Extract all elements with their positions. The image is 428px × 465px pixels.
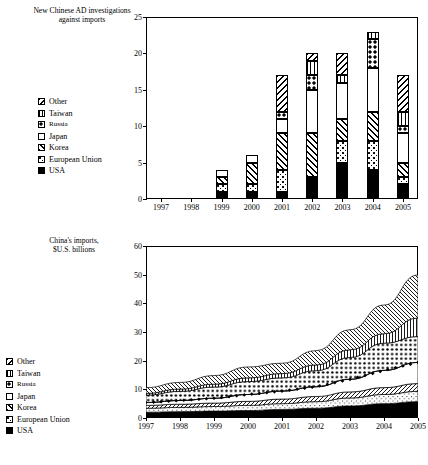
top-x-tick-mark	[191, 199, 192, 202]
bottom-x-tick-mark	[316, 418, 317, 421]
top-x-tick-mark	[373, 199, 374, 202]
bottom-legend-item[interactable]: European Union	[6, 414, 70, 426]
bar-segment	[336, 75, 348, 82]
legend-label: Russia	[49, 120, 68, 129]
bottom-legend-item[interactable]: Japan	[6, 391, 70, 403]
top-legend-item[interactable]: USA	[38, 165, 102, 177]
top-y-tick-label: 15	[120, 85, 142, 94]
legend-label: Korea	[17, 403, 37, 412]
top-x-tick-label: 2003	[327, 203, 357, 212]
top-legend-item[interactable]: Other	[38, 96, 102, 108]
legend-swatch-korea-icon	[6, 404, 13, 411]
bar-segment	[246, 192, 258, 199]
bar-segment	[306, 133, 318, 177]
bottom-y-tick-label: 10	[120, 385, 142, 394]
bottom-y-tick-mark	[143, 361, 147, 362]
bottom-x-tick-mark	[214, 418, 215, 421]
top-legend-item[interactable]: Russia	[38, 119, 102, 131]
legend-swatch-european-union-icon	[6, 416, 13, 423]
bottom-x-tick-mark	[384, 418, 385, 421]
legend-swatch-other-icon	[38, 98, 45, 105]
legend-swatch-taiwan-icon	[38, 110, 45, 117]
bottom-y-tick-mark	[143, 303, 147, 304]
bar-segment	[276, 170, 288, 192]
legend-swatch-usa-icon	[38, 167, 45, 174]
bar-segment	[246, 155, 258, 162]
bar-segment	[216, 192, 228, 199]
legend-label: Taiwan	[49, 109, 72, 118]
top-x-tick-mark	[161, 199, 162, 202]
bar-segment	[397, 177, 409, 184]
legend-swatch-japan-icon	[38, 133, 45, 140]
legend-swatch-russia-icon	[6, 381, 13, 388]
bar-segment	[306, 90, 318, 134]
legend-swatch-russia-icon	[38, 121, 45, 128]
bar-segment	[397, 133, 409, 162]
bar-segment	[306, 177, 318, 199]
top-legend-item[interactable]: Taiwan	[38, 108, 102, 120]
top-y-tick-label: 0	[120, 195, 142, 204]
legend-swatch-usa-icon	[6, 427, 13, 434]
bar-segment	[397, 126, 409, 133]
bar-segment	[306, 75, 318, 90]
legend-swatch-japan-icon	[6, 393, 13, 400]
bottom-legend-item[interactable]: Taiwan	[6, 368, 70, 380]
bar-segment	[397, 184, 409, 199]
legend-label: Japan	[17, 392, 35, 401]
bottom-y-tick-mark	[143, 332, 147, 333]
bottom-y-tick-label: 20	[120, 356, 142, 365]
bottom-x-tick-label: 1997	[131, 422, 161, 431]
bar-segment	[336, 119, 348, 141]
bottom-legend-item[interactable]: Other	[6, 356, 70, 368]
bar-segment	[246, 184, 258, 191]
bottom-y-tick-label: 50	[120, 270, 142, 279]
top-x-tick-label: 2005	[388, 203, 418, 212]
bottom-y-tick-mark	[143, 389, 147, 390]
bar-segment	[367, 141, 379, 170]
bottom-x-tick-mark	[180, 418, 181, 421]
top-legend-item[interactable]: Japan	[38, 131, 102, 143]
bottom-x-tick-mark	[146, 418, 147, 421]
bar-segment	[306, 61, 318, 76]
legend-label: European Union	[17, 415, 70, 424]
bar-segment	[367, 39, 379, 68]
top-y-tick-mark	[143, 126, 147, 127]
top-y-tick-label: 20	[120, 49, 142, 58]
bottom-x-tick-mark	[418, 418, 419, 421]
bottom-x-tick-label: 2000	[233, 422, 263, 431]
top-y-tick-mark	[143, 53, 147, 54]
bar-segment	[276, 75, 288, 111]
bar-segment	[216, 184, 228, 191]
bar-segment	[276, 192, 288, 199]
top-x-tick-mark	[252, 199, 253, 202]
legend-label: Russia	[17, 380, 36, 389]
bar-segment	[367, 32, 379, 39]
bottom-x-tick-mark	[282, 418, 283, 421]
top-x-tick-mark	[312, 199, 313, 202]
bar-segment	[246, 163, 258, 185]
bar-segment	[397, 112, 409, 127]
bar-segment	[306, 53, 318, 60]
top-legend-item[interactable]: European Union	[38, 154, 102, 166]
bottom-y-tick-mark	[143, 246, 147, 247]
bar-segment	[336, 53, 348, 75]
bottom-legend-item[interactable]: Korea	[6, 402, 70, 414]
bottom-legend-item[interactable]: Russia	[6, 379, 70, 391]
top-y-tick-mark	[143, 17, 147, 18]
legend-swatch-taiwan-icon	[6, 370, 13, 377]
top-x-tick-label: 1997	[146, 203, 176, 212]
bar-segment	[336, 163, 348, 199]
bar-segment	[276, 112, 288, 119]
top-legend-item[interactable]: Korea	[38, 142, 102, 154]
bar-segment	[336, 141, 348, 163]
bottom-legend: OtherTaiwanRussiaJapanKoreaEuropean Unio…	[6, 356, 70, 437]
bar-segment	[397, 75, 409, 111]
legend-label: USA	[17, 426, 33, 435]
top-y-tick-label: 25	[120, 13, 142, 22]
bottom-legend-item[interactable]: USA	[6, 425, 70, 437]
top-y-tick-mark	[143, 199, 147, 200]
legend-label: European Union	[49, 155, 102, 164]
bottom-y-tick-label: 40	[120, 299, 142, 308]
top-x-tick-mark	[342, 199, 343, 202]
legend-label: Taiwan	[17, 369, 40, 378]
